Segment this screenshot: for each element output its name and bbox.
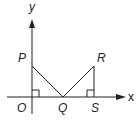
right-angle-marker-s [87, 90, 94, 97]
y-axis-label: y [28, 0, 36, 14]
x-axis-label: x [128, 90, 134, 104]
point-label-q: Q [58, 101, 67, 115]
point-label-r: R [97, 51, 106, 65]
right-angle-marker-o [32, 90, 39, 97]
coordinate-diagram: y x P R O Q S [0, 0, 138, 122]
point-label-s: S [91, 101, 99, 115]
point-label-p: P [18, 51, 26, 65]
point-label-o: O [17, 101, 26, 115]
segment-qr [63, 66, 94, 97]
segment-pq [32, 66, 63, 97]
y-axis-arrow-icon [29, 19, 35, 28]
x-axis-arrow-icon [116, 94, 126, 100]
